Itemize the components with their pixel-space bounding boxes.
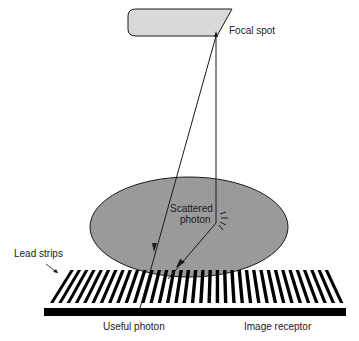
- lead-strip: [223, 270, 227, 303]
- lead-strip: [108, 270, 125, 303]
- useful-photon-label: Useful photon: [103, 321, 165, 332]
- patient-body: [90, 177, 288, 277]
- grid-diagram: [0, 0, 359, 341]
- lead-strip: [310, 270, 327, 303]
- lead-strips: [50, 270, 343, 303]
- lead-strip: [230, 270, 235, 303]
- image-receptor-label: Image receptor: [244, 321, 311, 332]
- lead-strip: [216, 270, 219, 303]
- image-receptor: [44, 308, 346, 316]
- lead-strip: [259, 270, 269, 303]
- lead-strip: [238, 270, 244, 303]
- lead-strip: [252, 270, 260, 303]
- lead-strips-label: Lead strips: [14, 248, 63, 259]
- lead-strip: [245, 270, 252, 303]
- focal-spot-label: Focal spot: [229, 25, 275, 36]
- xray-tube: [128, 9, 232, 36]
- scattered-photon-label-line2: photon: [180, 214, 211, 225]
- scattered-photon-label-line1: Scattered: [170, 203, 213, 214]
